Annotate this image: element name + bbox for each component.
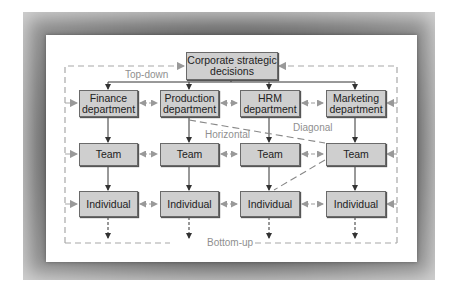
horizontal-label: Horizontal <box>205 129 250 140</box>
production-department-box: Production department <box>160 90 219 117</box>
connector-lines <box>0 0 459 295</box>
individual-box-marketing: Individual <box>326 191 386 217</box>
finance-department-box: Finance department <box>79 90 138 117</box>
marketing-department-box: Marketing department <box>326 90 386 117</box>
bottom-up-label: Bottom-up <box>207 237 253 248</box>
individual-box-finance: Individual <box>79 191 138 217</box>
corporate-strategic-decisions-box: Corporate strategic decisions <box>186 52 278 80</box>
individual-box-production: Individual <box>160 191 219 217</box>
individual-box-hrm: Individual <box>240 191 300 217</box>
hrm-department-box: HRM department <box>240 90 300 117</box>
diagonal-label: Diagonal <box>293 122 332 133</box>
team-box-production: Team <box>160 143 219 166</box>
team-box-hrm: Team <box>240 143 300 166</box>
team-box-finance: Team <box>79 143 138 166</box>
top-down-label: Top-down <box>125 69 168 80</box>
team-box-marketing: Team <box>326 143 386 166</box>
